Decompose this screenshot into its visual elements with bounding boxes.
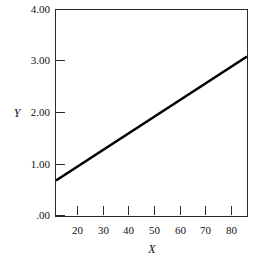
chart-container: 4.00 3.00 2.00 1.00 .00 20 30 40 50 60 7…: [0, 0, 265, 260]
x-tick-label-80: 80: [226, 224, 238, 236]
x-tick-label-30: 30: [98, 224, 110, 236]
x-tick-label-50: 50: [149, 224, 161, 236]
y-tick-label-2: 2.00: [31, 106, 51, 118]
line-chart: 4.00 3.00 2.00 1.00 .00 20 30 40 50 60 7…: [0, 0, 265, 260]
y-tick-label-4: 4.00: [31, 3, 51, 15]
x-tick-label-70: 70: [200, 224, 212, 236]
x-tick-label-60: 60: [175, 224, 187, 236]
x-axis-title: X: [147, 242, 156, 256]
y-tick-label-1: 1.00: [31, 158, 51, 170]
x-tick-label-20: 20: [72, 224, 84, 236]
y-tick-label-0: .00: [36, 209, 50, 221]
y-tick-label-3: 3.00: [31, 54, 51, 66]
x-tick-label-40: 40: [123, 224, 135, 236]
